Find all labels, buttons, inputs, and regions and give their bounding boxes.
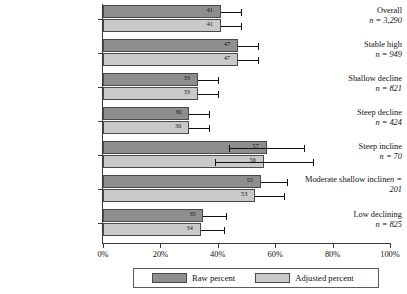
error-bar-line <box>238 46 258 47</box>
category-label: Steep declinen = 424 <box>304 108 402 128</box>
bar-value-label: 34 <box>187 224 193 231</box>
bar-value-label: 56 <box>250 156 256 163</box>
error-bar-line <box>201 230 224 231</box>
legend-item-raw: Raw percent <box>152 273 235 283</box>
error-bar-cap <box>229 145 230 152</box>
bar-adjusted-percent <box>103 53 238 66</box>
x-axis-tick <box>390 243 391 248</box>
bar-value-label: 55 <box>247 176 253 183</box>
error-bar-line <box>238 60 258 61</box>
x-axis-tick <box>275 243 276 248</box>
x-axis-tick-label: 20% <box>140 250 180 259</box>
error-bar-line <box>261 182 287 183</box>
x-axis-tick <box>333 243 334 248</box>
bar-raw-percent <box>103 175 261 188</box>
error-bar-line <box>189 128 209 129</box>
category-sample-size: n = 821 <box>304 84 402 94</box>
x-axis-tick-label: 100% <box>370 250 407 259</box>
category-name: Steep decline <box>304 108 402 118</box>
error-bar-cap <box>226 213 227 220</box>
category-sample-size: n = 3,290 <box>304 16 402 26</box>
category-name: Shallow decline <box>304 74 402 84</box>
error-bar-cap <box>258 43 259 50</box>
error-bar-line <box>198 80 218 81</box>
error-bar-cap <box>209 125 210 132</box>
bar-value-label: 53 <box>241 190 247 197</box>
bar-value-label: 30 <box>175 108 181 115</box>
error-bar-cap <box>218 91 219 98</box>
error-bar-cap <box>241 23 242 30</box>
x-axis-tick-label: 80% <box>313 250 353 259</box>
category-label: Stable highn = 949 <box>304 40 402 60</box>
category-name: Moderate shallow incline <box>305 175 390 184</box>
error-bar-cap <box>209 111 210 118</box>
error-bar-cap <box>215 159 216 166</box>
error-bar-line <box>189 114 209 115</box>
bar-raw-percent <box>103 209 203 222</box>
bar-value-label: 35 <box>189 210 195 217</box>
x-axis-tick-label: 40% <box>198 250 238 259</box>
category-sample-size: n = 70 <box>304 152 402 162</box>
error-bar-line <box>198 94 218 95</box>
error-bar-cap <box>258 57 259 64</box>
category-name: Steep incline <box>304 142 402 152</box>
category-sample-size: n = 825 <box>304 220 402 230</box>
category-name: Stable high <box>304 40 402 50</box>
category-label: Moderate shallow inclinen = 201 <box>304 175 402 195</box>
error-bar-line <box>215 162 313 163</box>
legend-label-raw: Raw percent <box>192 273 235 283</box>
error-bar-cap <box>241 9 242 16</box>
error-bar-cap <box>218 77 219 84</box>
category-sample-size: n = 424 <box>304 118 402 128</box>
x-axis-tick-label: 60% <box>255 250 295 259</box>
error-bar-cap <box>304 145 305 152</box>
error-bar-cap <box>287 179 288 186</box>
error-bar-cap <box>313 159 314 166</box>
bar-value-label: 47 <box>224 54 230 61</box>
error-bar-line <box>221 12 241 13</box>
legend-swatch-raw-icon <box>152 273 187 283</box>
bar-raw-percent <box>103 39 238 52</box>
legend-item-adjusted: Adjusted percent <box>255 273 353 283</box>
x-axis-tick <box>218 243 219 248</box>
bar-value-label: 47 <box>224 40 230 47</box>
error-bar-cap <box>284 193 285 200</box>
category-label: Overalln = 3,290 <box>304 6 402 26</box>
chart-legend: Raw percent Adjusted percent <box>133 268 379 288</box>
error-bar-cap <box>224 227 225 234</box>
x-axis-line <box>102 243 391 244</box>
bar-adjusted-percent <box>103 189 255 202</box>
error-bar-line <box>203 216 226 217</box>
x-axis-tick <box>160 243 161 248</box>
bar-value-label: 41 <box>207 20 213 27</box>
x-axis-tick-label: 0% <box>83 250 123 259</box>
legend-label-adjusted: Adjusted percent <box>295 273 353 283</box>
category-label: Low decliningn = 825 <box>304 210 402 230</box>
category-sample-size: n = 201 <box>389 175 402 194</box>
error-bar-line <box>229 148 304 149</box>
category-name: Overall <box>304 6 402 16</box>
bar-value-label: 30 <box>175 122 181 129</box>
category-label: Steep inclinen = 70 <box>304 142 402 162</box>
legend-swatch-adjusted-icon <box>255 273 290 283</box>
x-axis-tick <box>103 243 104 248</box>
bar-raw-percent <box>103 5 221 18</box>
bar-value-label: 33 <box>184 74 190 81</box>
bar-value-label: 33 <box>184 88 190 95</box>
bar-value-label: 41 <box>207 6 213 13</box>
error-bar-line <box>221 26 241 27</box>
category-label: Shallow declinen = 821 <box>304 74 402 94</box>
error-bar-line <box>255 196 284 197</box>
bar-adjusted-percent <box>103 19 221 32</box>
category-name: Low declining <box>304 210 402 220</box>
category-sample-size: n = 949 <box>304 50 402 60</box>
bar-value-label: 57 <box>253 142 259 149</box>
